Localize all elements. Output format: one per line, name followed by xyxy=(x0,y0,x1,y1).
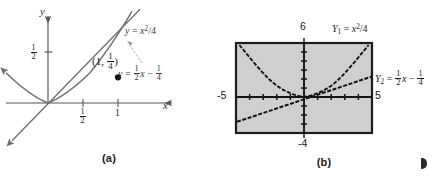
panel-b-y2-label: Y2 = 12x − 14 xyxy=(375,70,424,88)
panel-a-ytick-label-half: 12 xyxy=(30,44,37,62)
panel-a-xtick-label-one: 1 xyxy=(115,108,120,118)
panel-a-graph xyxy=(0,0,218,150)
panel-b-window-ymin: -4 xyxy=(298,137,307,149)
panel-b-y1-label: Y1 = x2/4 xyxy=(332,24,368,36)
panel-a-line-label: y = 12x − 14 xyxy=(118,65,162,83)
panel-b-window-ymax: 6 xyxy=(300,20,306,32)
panel-a-x-axis-label: x xyxy=(163,100,168,111)
panel-b: 6 -4 -5 5 Y1 = x2/4 Y2 = 12x − 14 (b) xyxy=(215,0,433,183)
panel-a-curve-label: y = x2/4 xyxy=(125,26,156,36)
panel-a-xtick-label-half: 12 xyxy=(79,108,86,126)
panel-b-window-xmin: -5 xyxy=(217,89,226,101)
panel-a-caption: (a) xyxy=(0,152,218,164)
panel-b-window-xmax: 5 xyxy=(375,89,381,101)
panel-a-y-axis-label: y xyxy=(40,6,45,17)
panel-a-point-label: (1, 14) xyxy=(92,52,118,71)
panel-a: y x 12 12 1 (1, 14) y = x2/4 y = 12x − 1… xyxy=(0,0,218,183)
panel-b-caption: (b) xyxy=(215,156,433,168)
figure-root: y x 12 12 1 (1, 14) y = x2/4 y = 12x − 1… xyxy=(0,0,433,183)
panel-a-label-leader xyxy=(129,44,142,63)
